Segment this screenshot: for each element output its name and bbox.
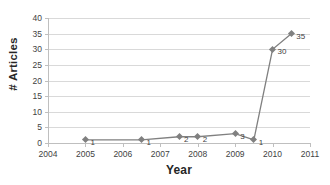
data-point-label: 3	[240, 133, 244, 141]
series-line	[48, 18, 310, 143]
x-tick-mark	[85, 143, 86, 147]
y-tick-mark	[45, 34, 48, 35]
y-tick-mark	[45, 96, 48, 97]
x-tick-label: 2011	[292, 150, 328, 159]
y-axis-title: # Articles	[7, 29, 19, 99]
x-tick-label: 2009	[217, 150, 253, 159]
x-tick-mark	[235, 143, 236, 147]
y-tick-mark	[45, 49, 48, 50]
y-tick-label: 10	[2, 108, 42, 116]
x-tick-mark	[273, 143, 274, 147]
y-tick-mark	[45, 127, 48, 128]
y-tick-mark	[45, 81, 48, 82]
x-tick-label: 2007	[142, 150, 178, 159]
x-tick-mark	[198, 143, 199, 147]
y-tick-label: 5	[2, 123, 42, 131]
x-axis-title: Year	[48, 163, 310, 177]
x-axis-line	[48, 143, 310, 144]
y-tick-mark	[45, 18, 48, 19]
data-point-label: 2	[203, 136, 207, 144]
data-point-label: 1	[259, 139, 263, 147]
x-tick-mark	[160, 143, 161, 147]
x-tick-mark	[48, 143, 49, 147]
y-tick-label: 40	[2, 14, 42, 22]
y-tick-mark	[45, 143, 48, 144]
data-point-label: 1	[147, 139, 151, 147]
x-tick-mark	[123, 143, 124, 147]
data-point-label: 1	[90, 139, 94, 147]
x-tick-label: 2006	[105, 150, 141, 159]
x-tick-label: 2004	[30, 150, 66, 159]
data-point-label: 2	[184, 136, 188, 144]
x-tick-label: 2008	[180, 150, 216, 159]
x-tick-label: 2010	[255, 150, 291, 159]
y-tick-mark	[45, 65, 48, 66]
data-point-label: 35	[296, 33, 305, 41]
x-tick-label: 2005	[67, 150, 103, 159]
data-point-label: 30	[278, 48, 287, 56]
series-polyline	[85, 34, 291, 140]
line-chart: 0510152025303540 20042005200620072008200…	[0, 0, 330, 185]
y-tick-mark	[45, 112, 48, 113]
x-tick-mark	[310, 143, 311, 147]
y-tick-label: 0	[2, 139, 42, 147]
